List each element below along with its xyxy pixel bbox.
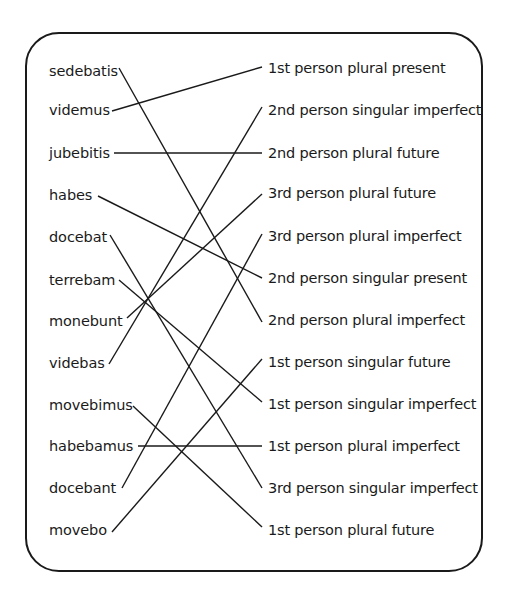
latin-word: videbas [49,354,105,372]
latin-word: movebo [49,521,107,539]
latin-word: videmus [49,101,110,119]
grammar-description: 2nd person singular imperfect [268,101,481,119]
latin-word: sedebatis [49,62,118,80]
connection-line [112,67,262,111]
grammar-description: 2nd person plural future [268,144,439,162]
latin-word: jubebitis [49,144,110,162]
latin-word: docebat [49,228,107,246]
grammar-description: 3rd person plural imperfect [268,227,462,245]
grammar-description: 1st person plural future [268,521,434,539]
connection-line [109,107,262,364]
latin-word: movebimus [49,396,133,414]
grammar-description: 1st person plural imperfect [268,437,460,455]
grammar-description: 1st person plural present [268,59,445,77]
grammar-description: 1st person singular future [268,353,451,371]
latin-word: habes [49,186,92,204]
connection-line [98,196,262,278]
connection-lines [0,0,510,599]
connection-line [122,234,262,488]
grammar-description: 2nd person singular present [268,269,467,287]
connection-line [133,406,262,527]
connection-line [119,68,262,322]
latin-word: terrebam [49,271,115,289]
grammar-description: 3rd person singular imperfect [268,479,478,497]
latin-word: habebamus [49,437,133,455]
grammar-description: 3rd person plural future [268,184,436,202]
latin-word: monebunt [49,312,123,330]
grammar-description: 1st person singular imperfect [268,395,476,413]
latin-word: docebant [49,479,116,497]
grammar-description: 2nd person plural imperfect [268,311,465,329]
